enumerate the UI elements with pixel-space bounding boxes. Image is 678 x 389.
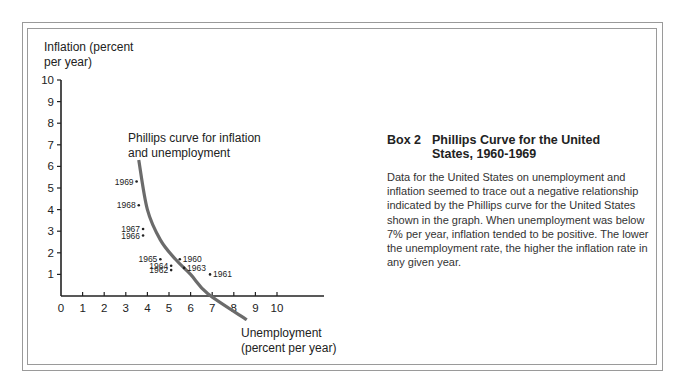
data-point-label: 1961 (213, 269, 232, 279)
data-point-1963 (183, 267, 186, 270)
data-point-1967 (142, 228, 145, 231)
data-point-1966 (142, 234, 145, 237)
box-heading-line1: Phillips Curve for the United (432, 133, 662, 147)
caption-title: Box 2 Phillips Curve for the United Stat… (387, 133, 662, 161)
data-point-1969 (135, 180, 138, 183)
data-point-label: 1963 (187, 263, 206, 273)
data-point-1968 (137, 204, 140, 207)
data-point-1964 (170, 264, 173, 267)
data-point-label: 1968 (117, 200, 136, 210)
y-tick-label: 4 (48, 204, 55, 216)
x-tick-label: 0 (58, 302, 64, 314)
data-point-label: 1965 (138, 254, 157, 264)
x-tick-label: 4 (144, 302, 151, 314)
box-number: Box 2 (387, 133, 432, 161)
x-tick-label: 7 (209, 302, 215, 314)
y-tick-label: 7 (48, 139, 54, 151)
data-point-label: 1967 (121, 224, 140, 234)
x-tick-label: 5 (166, 302, 172, 314)
x-tick-label: 2 (101, 302, 107, 314)
x-tick-label: 6 (187, 302, 193, 314)
box-heading: Phillips Curve for the United States, 19… (432, 133, 662, 161)
box-heading-line2: States, 1960-1969 (432, 147, 662, 161)
data-point-1965 (159, 258, 162, 261)
x-tick-label: 1 (79, 302, 85, 314)
x-tick-label: 3 (123, 302, 129, 314)
y-tick-label: 8 (48, 117, 54, 129)
y-tick-label: 2 (48, 247, 54, 259)
y-tick-label: 3 (48, 225, 54, 237)
y-tick-label: 9 (48, 96, 54, 108)
y-tick-label: 6 (48, 160, 54, 172)
caption-body: Data for the United States on unemployme… (387, 170, 662, 269)
data-point-1962 (170, 269, 173, 272)
y-tick-label: 1 (48, 268, 54, 280)
caption-box: Box 2 Phillips Curve for the United Stat… (387, 133, 662, 269)
y-tick-label: 5 (48, 182, 54, 194)
data-point-1960 (179, 258, 182, 261)
y-tick-label: 10 (41, 74, 54, 86)
data-point-1961 (209, 273, 212, 276)
x-tick-label: 10 (271, 302, 284, 314)
x-tick-label: 9 (252, 302, 258, 314)
data-point-label: 1969 (115, 177, 134, 187)
